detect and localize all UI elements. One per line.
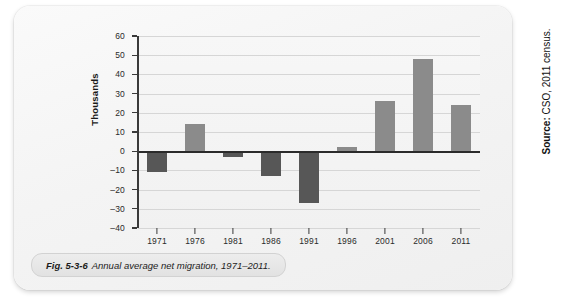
y-axis-tick: –40 <box>132 227 137 228</box>
y-axis-tick: 20 <box>132 112 137 113</box>
y-axis-tick-label: 20 <box>115 108 125 118</box>
source-value: CSO, 2011 census. <box>542 29 553 118</box>
bar <box>147 151 167 172</box>
y-axis-tick-label: 60 <box>115 31 125 41</box>
x-axis-tick <box>346 228 347 234</box>
x-axis-tick <box>308 228 309 234</box>
x-axis-tick-label: 2011 <box>451 236 470 246</box>
x-axis-tick-label: 1976 <box>185 236 205 246</box>
y-axis-tick: 60 <box>132 35 137 36</box>
bar <box>451 105 471 151</box>
y-axis-tick-label: 40 <box>115 69 125 79</box>
y-axis-tick: 10 <box>132 131 137 132</box>
y-axis-tick-label: –20 <box>110 185 125 195</box>
source-note: Source: CSO, 2011 census. <box>540 8 554 178</box>
x-axis-tick <box>270 228 271 234</box>
x-axis-labels: 197119761981198619911996200120062011 <box>138 228 480 254</box>
figure-caption: Fig. 5-3-6 Annual average net migration,… <box>31 253 286 277</box>
y-axis-tick: –10 <box>132 170 137 171</box>
y-axis-tick-label: 0 <box>120 146 125 156</box>
x-axis-tick-label: 1991 <box>299 236 319 246</box>
y-axis-tick-label: –30 <box>110 204 125 214</box>
figure-number: Fig. 5-3-6 <box>46 260 88 271</box>
source-label: Source: <box>542 117 553 154</box>
bar <box>261 151 281 176</box>
y-axis-tick-label: 50 <box>115 50 125 60</box>
bars-layer <box>138 36 480 228</box>
x-axis-tick-label: 1986 <box>261 236 281 246</box>
y-axis-tick: 40 <box>132 74 137 75</box>
y-axis-tick: 50 <box>132 55 137 56</box>
x-axis-tick-label: 1971 <box>147 236 167 246</box>
y-axis-tick-label: 30 <box>115 89 125 99</box>
bar <box>375 101 395 151</box>
figure-caption-text: Annual average net migration, 1971–2011. <box>92 260 271 271</box>
y-axis-tick-label: –40 <box>110 223 125 233</box>
chart-plot-region: Thousands 6050403020100–10–20–30–40 1971… <box>32 20 494 242</box>
x-axis-tick <box>422 228 423 234</box>
x-axis-tick-label: 1981 <box>223 236 243 246</box>
y-axis-tick-label: –10 <box>110 165 125 175</box>
y-axis-tick: 30 <box>132 93 137 94</box>
chart-canvas <box>138 36 480 228</box>
x-axis-tick <box>194 228 195 234</box>
zero-axis-line <box>138 151 480 153</box>
bar <box>299 151 319 203</box>
bar <box>185 124 205 151</box>
y-axis-tick: –30 <box>132 208 137 209</box>
y-axis-title: Thousands <box>89 57 100 143</box>
x-axis-tick <box>460 228 461 234</box>
y-axis-line: 6050403020100–10–20–30–40 <box>137 36 139 228</box>
y-axis-tick: –20 <box>132 189 137 190</box>
x-axis-tick-label: 2006 <box>413 236 433 246</box>
y-axis-tick-label: 10 <box>115 127 125 137</box>
x-axis-tick-label: 2001 <box>375 236 395 246</box>
figure-panel: Thousands 6050403020100–10–20–30–40 1971… <box>14 6 512 290</box>
x-axis-tick <box>232 228 233 234</box>
x-axis-tick <box>156 228 157 234</box>
x-axis-tick-label: 1996 <box>337 236 357 246</box>
y-axis-tick: 0 <box>132 151 137 152</box>
bar <box>413 59 433 151</box>
x-axis-tick <box>384 228 385 234</box>
